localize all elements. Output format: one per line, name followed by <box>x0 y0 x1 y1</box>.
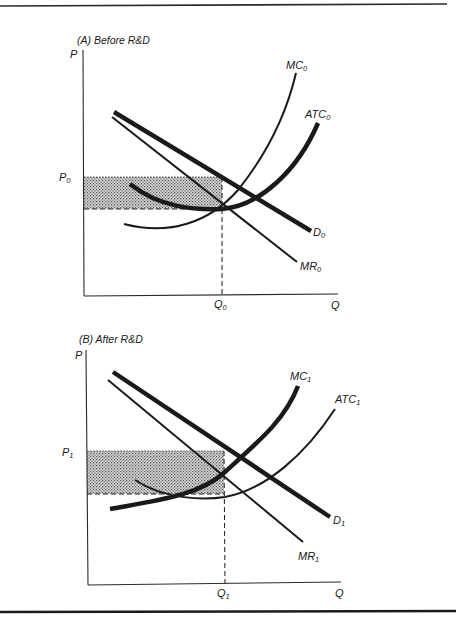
panel-b-atc-label: ATC1 <box>334 393 360 407</box>
panel-b-quantity-label: Q1 <box>217 587 230 601</box>
panel-b: (B) After R&D P P1 Q1 Q MC1 ATC1 D1 MR1 <box>62 333 360 601</box>
panel-b-price-label: P1 <box>62 446 74 460</box>
panel-a-price-label: P0 <box>59 171 71 185</box>
panel-a: (A) Before R&D P P0 Q0 Q MC0 ATC0 D0 MR0 <box>59 34 340 312</box>
panel-b-title: (B) After R&D <box>79 333 143 345</box>
panel-b-mc-label: MC1 <box>290 370 311 384</box>
panel-a-mr-label: MR0 <box>300 260 322 274</box>
panel-b-mr-label: MR1 <box>298 550 319 564</box>
panel-a-atc-label: ATC0 <box>304 108 331 122</box>
panel-a-quantity-label: Q0 <box>214 298 228 312</box>
panel-a-demand-label: D0 <box>313 226 326 240</box>
panel-a-y-axis-label: P <box>70 48 78 60</box>
panel-b-x-axis <box>88 582 341 585</box>
panel-a-x-axis <box>84 294 338 296</box>
top-rule <box>0 4 447 6</box>
panel-b-demand-label: D1 <box>333 514 345 528</box>
panel-a-profit-area <box>84 177 222 209</box>
panel-b-demand-curve <box>113 372 330 517</box>
panel-a-x-axis-label: Q <box>331 299 340 311</box>
bottom-rule <box>0 611 456 612</box>
panel-a-title: (A) Before R&D <box>77 34 150 46</box>
panel-b-x-axis-label: Q <box>335 587 344 599</box>
panel-b-y-axis-label: P <box>75 349 83 361</box>
panel-a-y-axis <box>83 50 84 296</box>
panel-a-mc-label: MC0 <box>286 59 308 73</box>
figure: (A) Before R&D P P0 Q0 Q MC0 ATC0 D0 MR0… <box>0 0 471 632</box>
